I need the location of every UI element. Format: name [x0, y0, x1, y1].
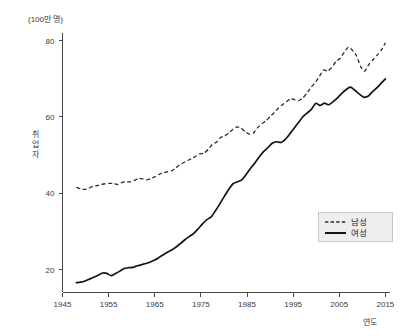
x-tick-label: 1985 — [238, 300, 256, 309]
y-axis-title-char: 업 — [32, 140, 39, 149]
x-tick-label: 1955 — [100, 300, 118, 309]
y-tick-label: 20 — [46, 266, 55, 275]
y-axis-ticks: 20406080 — [46, 37, 63, 275]
employment-line-chart: (100만 명) 20406080 1945195519651975198519… — [0, 0, 408, 336]
y-tick-label: 80 — [46, 37, 55, 46]
y-axis-title: 취 업 자 — [32, 130, 40, 159]
y-axis-unit-label: (100만 명) — [28, 14, 63, 24]
legend-label-female: 여성 — [351, 228, 367, 238]
x-tick-label: 2005 — [330, 300, 348, 309]
y-axis-title-char: 취 — [32, 130, 39, 139]
y-tick-label: 60 — [46, 113, 55, 122]
x-axis-ticks: 19451955196519751985199520052015 — [54, 293, 395, 309]
legend: 남성 여성 — [319, 213, 393, 242]
x-tick-label: 1945 — [54, 300, 72, 309]
x-tick-label: 1975 — [192, 300, 210, 309]
x-tick-label: 1965 — [146, 300, 164, 309]
y-tick-label: 40 — [46, 189, 55, 198]
x-tick-label: 1995 — [284, 300, 302, 309]
series-line-male — [76, 43, 385, 190]
chart-canvas: (100만 명) 20406080 1945195519651975198519… — [0, 0, 408, 336]
x-tick-label: 2015 — [376, 300, 394, 309]
x-axis-title: 연도 — [363, 318, 377, 327]
legend-label-male: 남성 — [351, 217, 367, 227]
series-line-female — [76, 79, 385, 283]
y-axis-title-char: 자 — [32, 150, 40, 159]
